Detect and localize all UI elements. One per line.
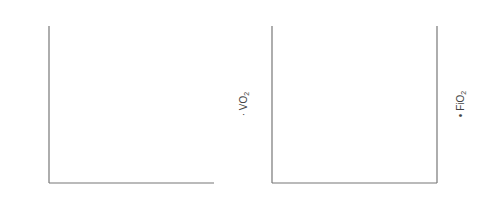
right-y-label: · VO2 <box>238 92 250 117</box>
right-y2-label: • FiO2 <box>455 91 467 117</box>
kcal-chart <box>0 0 214 183</box>
vo2-chart: · VO2 • FiO2 <box>0 0 467 183</box>
chart-canvas: · VO2 • FiO2 <box>0 0 477 221</box>
